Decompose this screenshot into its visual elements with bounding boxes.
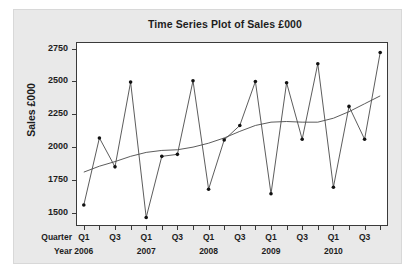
series-group xyxy=(82,51,382,220)
x-tick-mark xyxy=(177,226,178,230)
x-quarter-label: Q1 xyxy=(69,232,99,242)
x-tick-mark xyxy=(240,226,241,230)
x-tick-mark xyxy=(193,226,194,230)
x-tick-mark xyxy=(349,226,350,230)
x-tick-mark xyxy=(162,226,163,230)
quarter-row-caption: Quarter xyxy=(22,232,72,242)
data-point-marker xyxy=(207,187,211,191)
data-point-marker xyxy=(98,136,102,140)
data-point-marker xyxy=(191,79,195,83)
data-point-marker xyxy=(82,203,86,207)
data-point-marker xyxy=(113,165,117,169)
x-quarter-label: Q3 xyxy=(350,232,380,242)
data-point-marker xyxy=(160,155,164,159)
x-tick-mark xyxy=(318,226,319,230)
data-point-marker xyxy=(347,105,351,109)
data-point-marker xyxy=(144,216,148,220)
data-point-marker xyxy=(269,192,273,196)
y-tick-label: 1500 xyxy=(28,207,68,217)
x-tick-mark xyxy=(84,226,85,230)
x-quarter-label: Q1 xyxy=(194,232,224,242)
x-tick-mark xyxy=(131,226,132,230)
x-tick-mark xyxy=(99,226,100,230)
data-point-marker xyxy=(129,80,133,84)
x-year-label: 2008 xyxy=(189,246,229,256)
chart-figure: Time Series Plot of Sales £000 Sales £00… xyxy=(0,0,413,277)
x-year-label: 2006 xyxy=(64,246,104,256)
x-tick-mark xyxy=(365,226,366,230)
data-point-marker xyxy=(363,137,367,141)
y-tick-label: 2750 xyxy=(28,43,68,53)
x-tick-mark xyxy=(333,226,334,230)
x-tick-mark xyxy=(255,226,256,230)
x-tick-mark xyxy=(115,226,116,230)
data-point-marker xyxy=(300,137,304,141)
x-quarter-label: Q3 xyxy=(162,232,192,242)
x-tick-mark xyxy=(224,226,225,230)
data-point-marker xyxy=(285,81,289,85)
data-point-marker xyxy=(254,80,258,84)
plot-area xyxy=(76,42,388,226)
x-tick-mark xyxy=(380,226,381,230)
x-quarter-label: Q3 xyxy=(287,232,317,242)
y-tick-label: 1750 xyxy=(28,174,68,184)
x-quarter-label: Q3 xyxy=(100,232,130,242)
data-point-marker xyxy=(238,124,242,128)
data-point-marker xyxy=(176,153,180,157)
y-tick-label: 2250 xyxy=(28,108,68,118)
x-tick-mark xyxy=(146,226,147,230)
data-point-marker xyxy=(378,51,382,55)
x-tick-mark xyxy=(302,226,303,230)
x-year-label: 2007 xyxy=(126,246,166,256)
x-tick-mark xyxy=(209,226,210,230)
chart-title: Time Series Plot of Sales £000 xyxy=(60,18,390,30)
x-quarter-label: Q1 xyxy=(256,232,286,242)
y-tick-label: 2000 xyxy=(28,141,68,151)
y-tick-label: 2500 xyxy=(28,75,68,85)
x-year-label: 2010 xyxy=(313,246,353,256)
data-point-marker xyxy=(316,62,320,66)
x-year-label: 2009 xyxy=(251,246,291,256)
data-point-marker xyxy=(332,185,336,189)
x-quarter-label: Q3 xyxy=(225,232,255,242)
x-tick-mark xyxy=(271,226,272,230)
x-quarter-label: Q1 xyxy=(318,232,348,242)
x-tick-mark xyxy=(287,226,288,230)
x-quarter-label: Q1 xyxy=(131,232,161,242)
trend-line xyxy=(84,96,380,172)
